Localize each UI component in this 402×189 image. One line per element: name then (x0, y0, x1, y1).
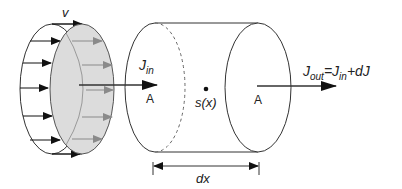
area-left-label: A (146, 92, 154, 106)
area-right-label: A (254, 93, 262, 107)
diagram-canvas: v Jin A s(x) A Jout=Jin+dJ dx (0, 0, 402, 189)
flux-in-label: Jin (138, 57, 154, 76)
velocity-profile (20, 24, 114, 154)
cylinder-control-volume (125, 23, 291, 152)
flux-out-label: Jout=Jin+dJ (302, 63, 371, 82)
velocity-label: v (62, 5, 70, 20)
source-point (204, 87, 209, 92)
length-label: dx (196, 171, 210, 186)
source-label: s(x) (195, 95, 217, 110)
